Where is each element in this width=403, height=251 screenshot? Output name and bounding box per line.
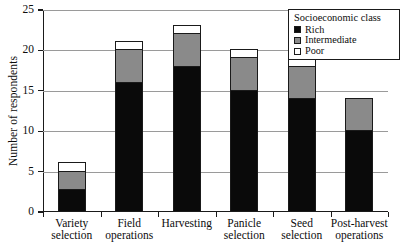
y-tick-mark	[38, 131, 43, 132]
legend-items: RichIntermediatePoor	[294, 25, 395, 57]
y-tick-mark	[38, 171, 43, 172]
bar-segment-poor	[230, 49, 258, 58]
bar-segment-rich	[173, 65, 201, 212]
bar-segment-rich	[288, 98, 316, 212]
legend: Socioeconomic class RichIntermediatePoor	[288, 9, 400, 60]
bar-segment-poor	[115, 41, 143, 50]
poor-swatch-icon	[294, 48, 301, 55]
bar-segment-rich	[115, 82, 143, 212]
x-tick-label-line: Post-harvest	[304, 217, 403, 229]
bar-segment-intermediate	[230, 57, 258, 90]
y-tick-label: 5	[0, 166, 34, 178]
bar-segment-rich	[58, 189, 86, 212]
bar-segment-poor	[173, 25, 201, 34]
bar-segment-intermediate	[58, 171, 86, 191]
rich-swatch-icon	[294, 26, 301, 33]
bar-segment-rich	[230, 90, 258, 212]
x-tick-label: Post-harvestoperations	[304, 217, 403, 242]
y-tick-label: 0	[0, 206, 34, 218]
y-tick-mark	[38, 90, 43, 91]
gridline	[43, 172, 388, 173]
y-tick-mark	[38, 50, 43, 51]
gridline	[43, 91, 388, 92]
gridline	[43, 131, 388, 132]
y-tick-label: 25	[0, 4, 34, 16]
legend-item-label: Poor	[305, 46, 324, 57]
bar-segment-intermediate	[345, 98, 373, 131]
intermediate-swatch-icon	[294, 37, 301, 44]
y-tick-label: 20	[0, 44, 34, 56]
y-tick-label: 15	[0, 85, 34, 97]
bar-segment-intermediate	[288, 65, 316, 98]
legend-item[interactable]: Poor	[294, 46, 395, 57]
y-tick-label: 10	[0, 125, 34, 137]
y-axis-line	[43, 10, 44, 212]
bar-segment-rich	[345, 130, 373, 212]
x-tick-label-line: operations	[74, 229, 184, 241]
bar-segment-intermediate	[115, 49, 143, 82]
bar-segment-poor	[58, 162, 86, 171]
bar-segment-intermediate	[173, 33, 201, 66]
y-tick-mark	[38, 9, 43, 10]
x-tick-label-line: operations	[304, 229, 403, 241]
legend-title: Socioeconomic class	[294, 12, 395, 24]
bar-chart: Number of respondents 0510152025 Variety…	[0, 0, 403, 251]
